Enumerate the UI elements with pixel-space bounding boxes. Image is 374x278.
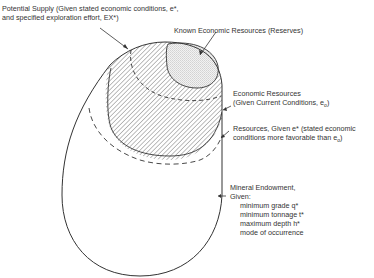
potential-supply-label: Potential Supply (Given stated economic … — [2, 4, 179, 22]
known-economic-resources-label: Known Economic Resources (Reserves) — [174, 26, 303, 35]
endowment-condition: minimum tonnage t* — [230, 210, 304, 219]
mineral-endowment-label: Mineral Endowment, Given: minimum grade … — [230, 183, 304, 237]
endowment-condition: mode of occurrence — [230, 228, 304, 237]
endowment-condition: minimum grade q* — [230, 201, 304, 210]
endowment-condition: maximum depth h* — [230, 219, 304, 228]
economic-resources-label: Economic Resources (Given Current Condit… — [233, 89, 329, 110]
resources-given-label: Resources, Given e* (stated economic con… — [233, 124, 356, 145]
